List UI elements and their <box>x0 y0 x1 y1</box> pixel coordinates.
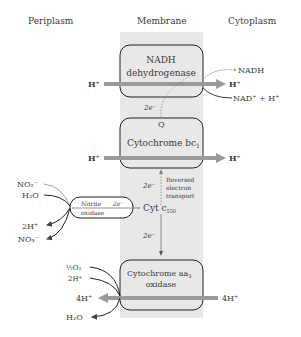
svg-text:NO₂⁻: NO₂⁻ <box>17 180 38 189</box>
q-label: Q <box>158 120 165 129</box>
h-plus-right-1: H⁺ <box>229 79 241 89</box>
svg-text:oxidase: oxidase <box>146 280 177 289</box>
svg-text:2H⁺: 2H⁺ <box>22 222 38 231</box>
svg-text:4H⁺: 4H⁺ <box>222 294 238 303</box>
svg-text:H₂O: H₂O <box>22 191 39 200</box>
h-plus-left-1: H⁺ <box>88 79 100 89</box>
svg-text:dehydrogenase: dehydrogenase <box>126 68 196 78</box>
membrane-header: Membrane <box>137 16 187 26</box>
nitrite-oxidation-diagram: Periplasm Membrane Cytoplasm NADH dehydr… <box>0 0 301 337</box>
svg-text:oxidase: oxidase <box>81 209 104 216</box>
svg-text:NAD⁺ + H⁺: NAD⁺ + H⁺ <box>233 94 279 103</box>
svg-text:2e⁻: 2e⁻ <box>142 182 156 190</box>
svg-text:Cytochrome aa3: Cytochrome aa3 <box>127 269 192 279</box>
svg-text:NADH: NADH <box>238 66 264 75</box>
nitrite-oxidase-complex: Nitrite oxidase 2e⁻ <box>70 197 133 218</box>
svg-text:NO₃⁻: NO₃⁻ <box>18 235 39 244</box>
nad-arc <box>203 88 232 98</box>
svg-text:½O₂: ½O₂ <box>66 264 82 272</box>
cytoplasm-header: Cytoplasm <box>228 16 277 26</box>
svg-text:H₂O: H₂O <box>66 313 83 322</box>
svg-text:transport: transport <box>166 192 195 200</box>
svg-text:4H⁺: 4H⁺ <box>76 294 92 303</box>
svg-text:2e⁻: 2e⁻ <box>143 104 157 112</box>
svg-text:Cytochrome bc1: Cytochrome bc1 <box>127 138 200 149</box>
svg-text:Nitrite: Nitrite <box>81 200 102 207</box>
svg-text:Reversed: Reversed <box>166 176 195 183</box>
svg-text:2e⁻: 2e⁻ <box>142 232 156 240</box>
svg-text:2H⁺: 2H⁺ <box>68 275 83 283</box>
svg-text:H⁺: H⁺ <box>88 153 100 163</box>
svg-text:NADH: NADH <box>146 55 176 65</box>
svg-text:H⁺: H⁺ <box>229 153 241 163</box>
svg-text:2e⁻: 2e⁻ <box>112 200 124 207</box>
periplasm-header: Periplasm <box>28 16 74 26</box>
nadh-arrow <box>205 70 236 78</box>
svg-text:electron: electron <box>166 184 191 191</box>
